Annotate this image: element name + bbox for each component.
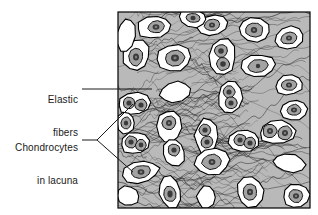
chondrocyte-nucleus [237,137,242,142]
nucleolus [140,171,143,173]
lacuna [117,112,134,134]
chondrocyte-nucleus [226,89,231,94]
chondrocyte-nucleus [220,61,226,67]
chondrocyte-nucleus [202,127,207,132]
chondrocyte-nucleus [139,143,144,148]
nucleolus [155,26,158,28]
chondrocyte-nucleus [256,64,260,68]
chondrocyte-nucleus [204,139,209,144]
nucleolus [135,55,138,58]
chondrocyte-nucleus [190,16,195,20]
nucleolus [253,29,256,32]
label-chondrocytes-line1: Chondrocytes [0,142,78,153]
chondrocyte-nucleus [138,102,143,107]
chondrocyte-nucleus [218,48,224,54]
nucleolus [173,57,176,60]
histology-panel [108,0,318,215]
nucleolus [293,109,296,111]
chondrocyte-nucleus [228,100,233,105]
chondrocyte-nucleus [171,147,176,152]
chondrocyte-nucleus [247,140,252,145]
nucleolus [168,122,171,125]
chondrocyte-nucleus [124,120,128,125]
nucleolus [288,37,291,39]
nucleolus [288,84,291,86]
nucleolus [211,24,214,26]
chondrocyte-nucleus [167,191,172,198]
nucleolus [211,161,214,164]
label-chondrocytes-line2: in lacuna [0,175,78,186]
chondrocyte-nucleus [128,139,133,144]
label-elastic-fibers-line1: Elastic [0,94,78,105]
nucleolus [295,195,298,197]
chondrocyte-nucleus [126,100,131,105]
label-chondrocytes-in-lacuna: Chondrocytes in lacuna [0,120,78,197]
nucleolus [249,191,252,194]
nucleolus [269,130,272,133]
nucleolus [284,132,287,135]
